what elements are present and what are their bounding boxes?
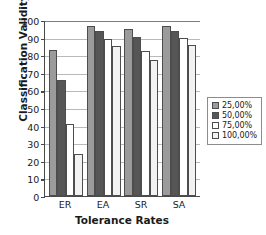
y-axis-tick [41,162,45,163]
y-axis-tick [41,56,45,57]
y-axis-tick-label: 100 [21,16,39,27]
y-axis-tick [41,109,45,110]
x-axis-title: Tolerance Rates [44,214,200,226]
y-axis-tick [41,197,45,198]
x-axis-tick-label: SR [122,199,160,210]
legend-label: 75,00% [222,121,252,130]
y-axis-tick-label: 90 [27,33,39,44]
bar [95,31,104,196]
y-axis-tick-label: 10 [27,174,39,185]
bar-group-sr [124,21,158,196]
bar [112,46,121,196]
legend-label: 100,00% [222,131,257,140]
legend-item: 50,00% [212,111,258,121]
y-axis-tick [41,144,45,145]
y-axis-tick-label: 0 [33,192,39,203]
legend-item: 100,00% [212,131,258,141]
y-axis-tick-label: 40 [27,121,39,132]
y-axis-tick-label: 60 [27,86,39,97]
bar [87,26,96,196]
y-axis-tick-label: 20 [27,156,39,167]
plot-area: 0102030405060708090100 [44,21,200,197]
bar [124,29,133,196]
y-axis-tick-label: 80 [27,51,39,62]
x-axis-tick-label: SA [160,199,198,210]
y-axis-tick [41,21,45,22]
legend-label: 50,00% [222,111,252,120]
bar-group-ea [87,21,121,196]
bar [162,26,171,196]
bar [188,45,197,196]
x-axis-tick-label: EA [84,199,122,210]
legend-swatch-icon [212,112,219,119]
bar [104,39,113,196]
legend-swatch-icon [212,132,219,139]
legend-label: 25,00% [222,101,252,110]
bar-chart-figure: Classification Validity 0102030405060708… [0,0,266,235]
chart-legend: 25,00%50,00%75,00%100,00% [207,97,262,145]
bar-groups [45,21,200,196]
bar-group-er [49,21,83,196]
bar [141,51,150,196]
y-axis-tick [41,179,45,180]
legend-swatch-icon [212,102,219,109]
bar [57,80,66,196]
bar [133,37,142,196]
x-axis-tick-label: ER [46,199,84,210]
bar-group-sa [162,21,196,196]
legend-item: 75,00% [212,121,258,131]
y-axis-tick [41,127,45,128]
y-axis-tick-label: 70 [27,68,39,79]
y-axis-tick-label: 50 [27,104,39,115]
legend-swatch-icon [212,122,219,129]
bar [66,124,75,196]
legend-item: 25,00% [212,101,258,111]
x-axis-tick-labels: EREASRSA [44,199,200,210]
bar [150,60,159,196]
y-axis-tick [41,74,45,75]
bar [171,31,180,196]
y-axis-tick [41,91,45,92]
y-axis-tick-label: 30 [27,139,39,150]
bar [49,50,58,196]
y-axis-tick [41,39,45,40]
bar [179,38,188,196]
bar [74,154,83,196]
